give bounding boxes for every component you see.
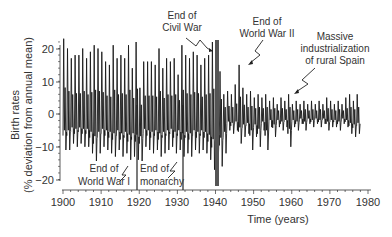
x-tick-label: 1910	[89, 196, 113, 208]
x-tick-label: 1970	[317, 196, 341, 208]
y-tick-label: 10	[42, 76, 54, 88]
y-axis-label-line2: (% deviation from annual mean)	[22, 37, 34, 193]
x-tick-label: 1980	[356, 196, 380, 208]
svg-text:of rural Spain: of rural Spain	[305, 55, 364, 66]
svg-text:Civil War: Civil War	[162, 22, 202, 33]
svg-text:industrialization: industrialization	[301, 43, 370, 54]
annotation-monarchy: End of monarchy	[139, 161, 184, 187]
annotation-industrialization: Massive industrialization of rural Spain	[294, 31, 369, 94]
y-tick-label: 20	[42, 43, 54, 55]
y-tick-label: −20	[35, 174, 54, 186]
svg-text:End of: End of	[90, 163, 119, 174]
zigzag-arrow-icon	[296, 68, 315, 92]
y-axis-label-line1: Birth rates	[9, 89, 21, 140]
svg-text:World War I: World War I	[78, 176, 130, 187]
y-tick-label: −10	[35, 141, 54, 153]
svg-text:End of: End of	[168, 10, 197, 21]
x-tick-label: 1960	[279, 196, 303, 208]
x-tick-label: 1930	[165, 196, 189, 208]
zigzag-arrow-icon	[250, 40, 263, 63]
svg-text:World War II: World War II	[239, 28, 294, 39]
svg-text:End of: End of	[253, 16, 282, 27]
civil-war-marker-bar	[215, 40, 219, 186]
zigzag-arrow-icon	[186, 38, 212, 51]
svg-text:Massive: Massive	[317, 31, 354, 42]
y-axis: 20 10 0 −10 −20	[35, 42, 60, 186]
x-axis: 1900 1910 1920 1930 1940 1950 1960 1970 …	[51, 190, 380, 208]
x-tick-label: 1950	[241, 196, 265, 208]
svg-text:monarchy: monarchy	[140, 176, 184, 187]
y-tick-label: 0	[48, 108, 54, 120]
x-tick-label: 1900	[51, 196, 75, 208]
x-tick-label: 1920	[127, 196, 151, 208]
annotation-civil-war: End of Civil War	[162, 10, 213, 52]
svg-text:End of: End of	[140, 163, 169, 174]
birth-rate-chart: 20 10 0 −10 −20 Birth rates (% deviation…	[0, 0, 392, 237]
x-axis-label: Time (years)	[247, 213, 308, 225]
annotation-ww1: End of World War I	[78, 161, 132, 187]
annotation-ww2: End of World War II	[239, 16, 294, 65]
x-tick-label: 1940	[203, 196, 227, 208]
